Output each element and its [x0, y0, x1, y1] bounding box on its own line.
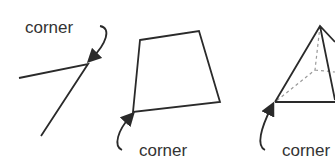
- angle-rays: [19, 64, 88, 136]
- label-corner-quadrilateral: corner: [139, 141, 188, 160]
- figure-angle: corner: [19, 18, 106, 136]
- arrow-icon: [260, 108, 271, 150]
- pyramid-hidden-edges: [275, 26, 335, 102]
- label-corner-pyramid: corner: [282, 141, 331, 160]
- diagram-canvas: corner corner corner: [0, 0, 335, 166]
- pyramid-visible-edges: [275, 26, 335, 102]
- figure-quadrilateral: corner: [117, 31, 220, 160]
- arrow-icon: [92, 26, 106, 58]
- quadrilateral-shape: [133, 31, 220, 112]
- arrow-icon: [117, 117, 130, 150]
- label-corner-angle: corner: [25, 18, 74, 37]
- figure-pyramid: corner: [260, 26, 335, 160]
